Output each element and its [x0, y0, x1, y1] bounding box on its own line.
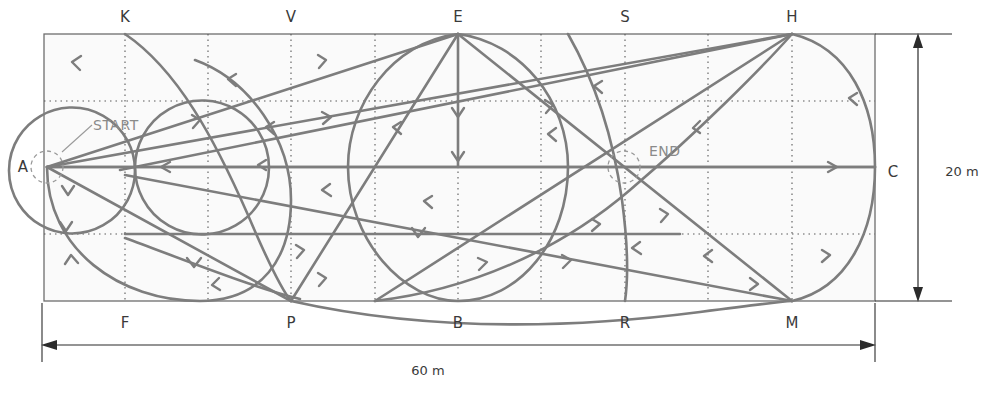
- letter-f: F: [121, 314, 130, 332]
- start-label: START: [93, 117, 139, 133]
- letter-h: H: [786, 8, 797, 26]
- dim-arrow-down-icon: [913, 287, 923, 302]
- letter-e: E: [453, 8, 462, 26]
- arena-letters-bottom: F P B R M: [121, 314, 799, 332]
- letter-m: M: [786, 314, 799, 332]
- end-label: END: [649, 143, 681, 159]
- letter-p: P: [286, 314, 295, 332]
- letter-s: S: [620, 8, 630, 26]
- arena-letters-top: K V E S H: [120, 8, 798, 26]
- letter-v: V: [286, 8, 297, 26]
- dim-arrow-up-icon: [913, 33, 923, 48]
- letter-k: K: [120, 8, 131, 26]
- dimension-height-label: 20 m: [945, 164, 978, 179]
- diagram-canvas: START END K V E S H F P B R M A C 20 m 6: [0, 0, 986, 401]
- dim-arrow-left-icon: [41, 340, 57, 350]
- letter-b: B: [453, 314, 463, 332]
- arena-diagram-svg: START END K V E S H F P B R M A C 20 m 6: [0, 0, 986, 401]
- dim-arrow-right-icon: [860, 340, 876, 350]
- letter-r: R: [620, 314, 630, 332]
- dimension-width-label: 60 m: [411, 363, 444, 378]
- letter-a: A: [18, 158, 29, 176]
- path-bottom-sweep: [291, 301, 792, 324]
- letter-c: C: [888, 163, 898, 181]
